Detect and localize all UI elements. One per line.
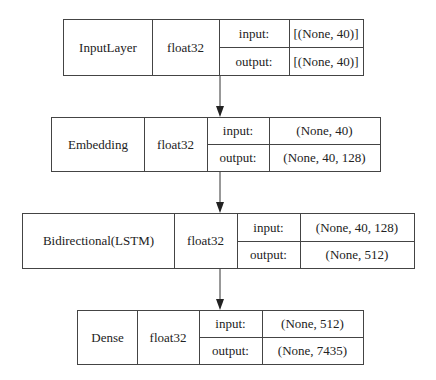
edge-inputlayer-embedding [216, 75, 224, 117]
edge-embedding-bidirectional [216, 171, 224, 213]
output-label: output: [207, 145, 269, 171]
input-shape: [(None, 40)] [289, 20, 363, 47]
input-shape: (None, 512) [262, 311, 363, 337]
input-shape: (None, 40, 128) [300, 214, 414, 241]
output-shape: [(None, 40)] [289, 48, 363, 75]
layer-dtype: float32 [137, 311, 199, 364]
layer-name: Bidirectional(LSTM) [23, 214, 174, 268]
input-label: input: [199, 311, 262, 337]
arrowhead-icon [216, 106, 224, 117]
edge-bidirectional-dense [216, 268, 224, 310]
layer-dtype: float32 [152, 20, 219, 75]
output-label: output: [237, 242, 300, 268]
output-label: output: [199, 338, 262, 364]
node-bidirectional-lstm: Bidirectional(LSTM) float32 input: outpu… [22, 213, 415, 269]
node-inputlayer: InputLayer float32 input: output: [(None… [63, 19, 364, 76]
layer-name: InputLayer [64, 20, 152, 75]
input-label: input: [207, 118, 269, 144]
layer-dtype: float32 [174, 214, 237, 268]
layer-dtype: float32 [144, 118, 207, 171]
output-label: output: [219, 48, 289, 75]
arrowhead-icon [216, 202, 224, 213]
input-shape: (None, 40) [269, 118, 380, 144]
input-label: input: [237, 214, 300, 241]
layer-name: Dense [78, 311, 137, 364]
node-embedding: Embedding float32 input: output: (None, … [51, 117, 381, 172]
layer-name: Embedding [52, 118, 144, 171]
arrowhead-icon [216, 299, 224, 310]
output-shape: (None, 7435) [262, 338, 363, 364]
input-label: input: [219, 20, 289, 47]
node-dense: Dense float32 input: output: (None, 512)… [77, 310, 364, 365]
output-shape: (None, 512) [300, 242, 414, 268]
output-shape: (None, 40, 128) [269, 145, 380, 171]
